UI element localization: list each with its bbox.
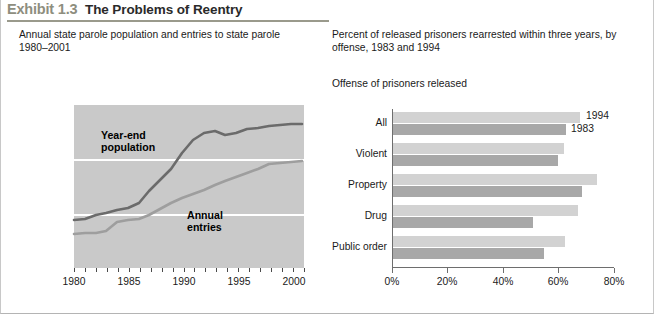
bar-all-1994 bbox=[393, 112, 580, 123]
x-tick-2001 bbox=[304, 268, 305, 272]
x-tick-1994 bbox=[227, 268, 228, 272]
x-tick-2000: 2000 bbox=[274, 276, 314, 287]
bar-tick-20 bbox=[447, 268, 448, 273]
bar-x-tick-0: 0% bbox=[372, 276, 412, 287]
x-tick-1980 bbox=[74, 268, 75, 272]
x-tick-1990: 1990 bbox=[164, 276, 204, 287]
bar-property-1994 bbox=[393, 174, 597, 185]
legend-label-1994: 1994 bbox=[586, 110, 609, 121]
line-x-axis-ticks bbox=[74, 268, 304, 273]
x-tick-1985 bbox=[129, 268, 130, 272]
header-rule bbox=[7, 20, 329, 22]
x-tick-1991 bbox=[194, 268, 195, 272]
x-tick-1993 bbox=[216, 268, 217, 272]
x-tick-1990 bbox=[184, 268, 185, 272]
x-tick-1996 bbox=[249, 268, 250, 272]
bar-category-violent: Violent bbox=[267, 148, 387, 159]
bar-all-1983 bbox=[393, 124, 566, 135]
exhibit-title: The Problems of Reentry bbox=[85, 2, 243, 17]
bar-x-tick-60: 60% bbox=[538, 276, 578, 287]
bar-x-tick-40: 40% bbox=[483, 276, 523, 287]
bar-property-1983 bbox=[393, 186, 582, 197]
x-tick-1987 bbox=[151, 268, 152, 272]
bar-category-property: Property bbox=[267, 179, 387, 190]
x-tick-1988 bbox=[162, 268, 163, 272]
x-tick-1989 bbox=[173, 268, 174, 272]
x-tick-1984 bbox=[118, 268, 119, 272]
bar-violent-1983 bbox=[393, 155, 558, 166]
bar-category-public-order: Public order bbox=[267, 241, 387, 252]
x-tick-1985: 1985 bbox=[109, 276, 149, 287]
x-tick-1997 bbox=[260, 268, 261, 272]
x-tick-1980: 1980 bbox=[54, 276, 94, 287]
bar-x-tick-20: 20% bbox=[427, 276, 467, 287]
series-label-entries: Annual entries bbox=[187, 209, 223, 233]
right-chart-axis-title: Offense of prisoners released bbox=[332, 78, 632, 91]
bar-category-drug: Drug bbox=[267, 210, 387, 221]
x-tick-1986 bbox=[140, 268, 141, 272]
bar-tick-60 bbox=[558, 268, 559, 273]
series-label-population: Year-end population bbox=[101, 129, 155, 153]
x-tick-1995 bbox=[238, 268, 239, 272]
x-tick-1982 bbox=[96, 268, 97, 272]
bar-tick-80 bbox=[614, 268, 615, 273]
bar-tick-0 bbox=[392, 268, 393, 273]
x-tick-1998 bbox=[271, 268, 272, 272]
bar-x-tick-80: 80% bbox=[594, 276, 634, 287]
left-chart-panel: Annual state parole population and entri… bbox=[1, 26, 325, 314]
bar-drug-1983 bbox=[393, 217, 533, 228]
x-tick-1992 bbox=[205, 268, 206, 272]
bar-tick-40 bbox=[503, 268, 504, 273]
legend-label-1983: 1983 bbox=[571, 123, 594, 134]
right-chart-caption: Percent of released prisoners rearrested… bbox=[332, 29, 642, 54]
x-tick-1981 bbox=[85, 268, 86, 272]
bar-violent-1994 bbox=[393, 143, 564, 154]
exhibit-number: Exhibit 1.3 bbox=[7, 1, 77, 17]
bar-public-order-1994 bbox=[393, 236, 565, 247]
bar-x-axis-ticks bbox=[392, 268, 622, 273]
x-tick-1995: 1995 bbox=[219, 276, 259, 287]
x-tick-1983 bbox=[107, 268, 108, 272]
bar-category-all: All bbox=[267, 117, 387, 128]
bar-public-order-1983 bbox=[393, 248, 544, 259]
bar-drug-1994 bbox=[393, 205, 578, 216]
x-tick-1999 bbox=[282, 268, 283, 272]
right-chart-panel: Percent of released prisoners rearrested… bbox=[325, 26, 654, 314]
x-tick-2000 bbox=[293, 268, 294, 272]
exhibit-header: Exhibit 1.3 The Problems of Reentry bbox=[1, 0, 654, 22]
exhibit-figure: Exhibit 1.3 The Problems of Reentry Annu… bbox=[0, 0, 654, 314]
